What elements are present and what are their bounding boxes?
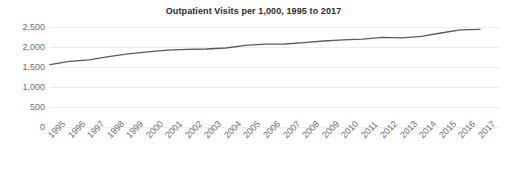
x-axis-tick-label: 2017 <box>476 119 497 140</box>
x-axis-tick-label: 2002 <box>183 119 204 140</box>
x-axis-tick-label: 2004 <box>222 119 243 140</box>
x-axis-tick-label: 2001 <box>163 119 184 140</box>
x-axis-tick-label: 2012 <box>378 119 399 140</box>
x-axis-tick-label: 2013 <box>398 119 419 140</box>
x-axis-tick-labels: 1995199619971998199920002001200220032004… <box>0 0 507 181</box>
x-axis-tick-label: 1998 <box>105 119 126 140</box>
x-axis-tick-label: 2005 <box>241 119 262 140</box>
x-axis-tick-label: 2009 <box>320 119 341 140</box>
chart-container: Outpatient Visits per 1,000, 1995 to 201… <box>0 0 507 181</box>
x-axis-tick-label: 1999 <box>124 119 145 140</box>
x-axis-tick-label: 2016 <box>456 119 477 140</box>
x-axis-tick-label: 2010 <box>339 119 360 140</box>
x-axis-tick-label: 2000 <box>144 119 165 140</box>
x-axis-tick-label: 2011 <box>359 119 380 140</box>
x-axis-tick-label: 2015 <box>437 119 458 140</box>
x-axis-tick-label: 2007 <box>281 119 302 140</box>
x-axis-tick-label: 2006 <box>261 119 282 140</box>
x-axis-tick-label: 2003 <box>202 119 223 140</box>
x-axis-tick-label: 1996 <box>66 119 87 140</box>
x-axis-tick-label: 2014 <box>417 119 438 140</box>
x-axis-tick-label: 1997 <box>85 119 106 140</box>
x-axis-tick-label: 1995 <box>46 119 67 140</box>
x-axis-tick-label: 2008 <box>300 119 321 140</box>
